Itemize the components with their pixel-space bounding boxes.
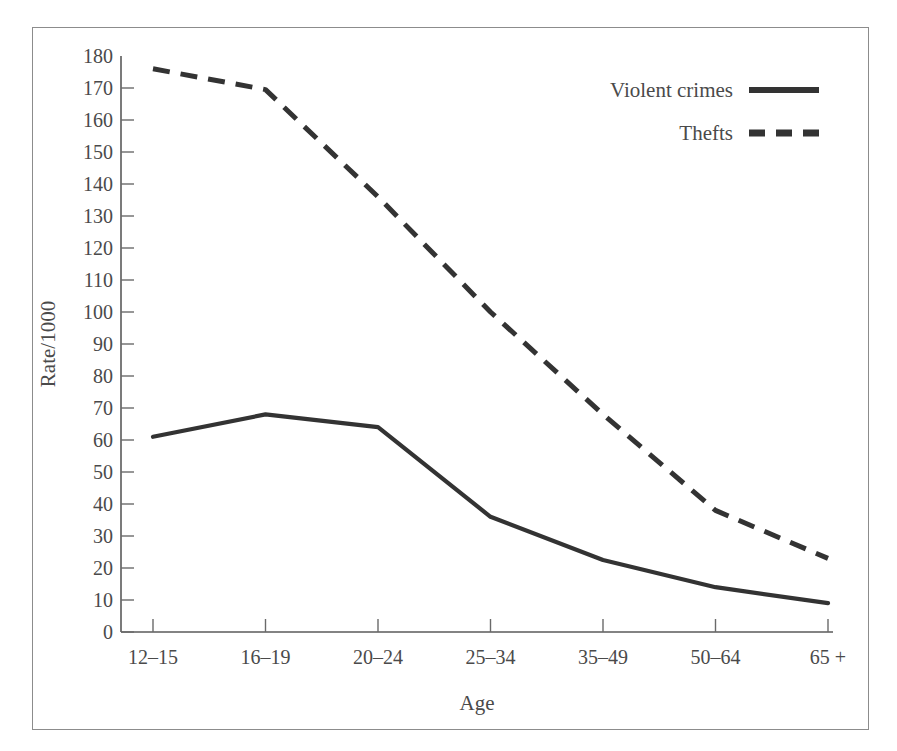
y-tick-label: 170 (83, 77, 113, 99)
y-tick-label: 100 (83, 301, 113, 323)
y-tick-label: 120 (83, 237, 113, 259)
line-chart: 0102030405060708090100110120130140150160… (33, 28, 868, 729)
y-tick-label: 0 (103, 621, 113, 643)
figure-frame: 0102030405060708090100110120130140150160… (32, 27, 869, 730)
y-tick-label: 30 (93, 525, 113, 547)
y-tick-label: 160 (83, 109, 113, 131)
y-tick-label: 180 (83, 45, 113, 67)
series-line-solid (153, 414, 828, 603)
x-category-label: 50–64 (691, 646, 741, 668)
x-axis-title: Age (460, 691, 495, 715)
y-tick-label: 10 (93, 589, 113, 611)
x-category-label: 35–49 (578, 646, 628, 668)
y-tick-label: 40 (93, 493, 113, 515)
y-tick-label: 90 (93, 333, 113, 355)
x-category-labels: 12–1516–1920–2425–3435–4950–6465 + (128, 646, 846, 668)
x-category-label: 16–19 (241, 646, 291, 668)
y-tick-label: 130 (83, 205, 113, 227)
x-category-label: 25–34 (466, 646, 516, 668)
x-category-label: 20–24 (353, 646, 403, 668)
y-tick-label: 110 (84, 269, 113, 291)
y-tick-label: 80 (93, 365, 113, 387)
y-tick-label: 50 (93, 461, 113, 483)
x-category-label: 12–15 (128, 646, 178, 668)
x-tick-group (153, 619, 828, 632)
legend-label: Thefts (679, 121, 733, 145)
data-series-group (153, 69, 828, 603)
y-tick-label: 140 (83, 173, 113, 195)
legend-label: Violent crimes (610, 78, 733, 102)
chart-legend: Violent crimesThefts (610, 78, 819, 145)
y-axis-title: Rate/1000 (36, 301, 60, 387)
y-tick-label: 20 (93, 557, 113, 579)
x-category-label: 65 + (810, 646, 846, 668)
y-tick-label: 60 (93, 429, 113, 451)
y-tick-label: 70 (93, 397, 113, 419)
y-tick-group: 0102030405060708090100110120130140150160… (83, 45, 134, 643)
y-tick-label: 150 (83, 141, 113, 163)
